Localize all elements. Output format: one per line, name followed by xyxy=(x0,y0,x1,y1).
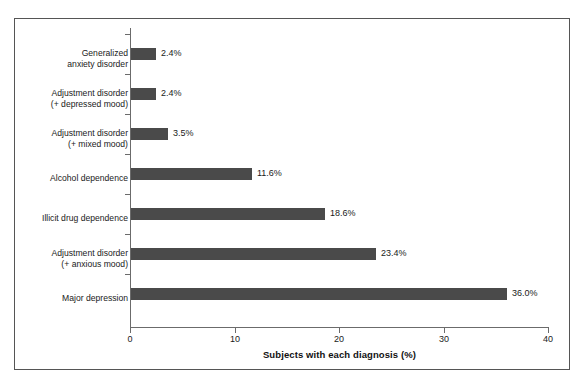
category-axis-tick xyxy=(125,34,130,35)
value-axis-tick xyxy=(130,328,131,333)
category-label-alcohol-dependence: Alcohol dependence xyxy=(0,173,128,184)
category-axis-tick xyxy=(125,114,130,115)
bar-alcohol-dependence xyxy=(131,168,252,180)
category-label-adjustment-disorder-anxious-mood: Adjustment disorder (+ anxious mood) xyxy=(0,248,128,270)
bar-value-alcohol-dependence: 11.6% xyxy=(257,168,282,178)
bar-value-illicit-drug-dependence: 18.6% xyxy=(330,208,356,218)
bar-value-adjustment-disorder-mixed-mood: 3.5% xyxy=(173,128,194,138)
value-axis-tick-label-20: 20 xyxy=(324,334,354,344)
bar-value-adjustment-disorder-anxious-mood: 23.4% xyxy=(381,248,407,258)
value-axis-tick-label-0: 0 xyxy=(115,334,145,344)
category-label-illicit-drug-dependence: Illicit drug dependence xyxy=(0,213,128,224)
value-axis-tick-label-30: 30 xyxy=(429,334,459,344)
value-axis-tick-label-40: 40 xyxy=(533,334,563,344)
bar-generalized-anxiety-disorder xyxy=(131,48,156,60)
category-axis-tick xyxy=(125,154,130,155)
bar-adjustment-disorder-depressed-mood xyxy=(131,88,156,100)
category-label-adjustment-disorder-mixed-mood: Adjustment disorder (+ mixed mood) xyxy=(0,128,128,150)
category-axis-tick xyxy=(125,74,130,75)
value-axis-tick xyxy=(444,328,445,333)
bar-adjustment-disorder-anxious-mood xyxy=(131,248,376,260)
figure: Generalized anxiety disorder 2.4% Adjust… xyxy=(0,0,584,382)
category-label-adjustment-disorder-depressed-mood: Adjustment disorder (+ depressed mood) xyxy=(0,88,128,110)
bar-adjustment-disorder-mixed-mood xyxy=(131,128,168,140)
category-axis-tick xyxy=(125,194,130,195)
category-axis-tick xyxy=(125,274,130,275)
category-axis-tick xyxy=(125,234,130,235)
bar-value-major-depression: 36.0% xyxy=(512,288,538,298)
value-axis-tick xyxy=(548,328,549,333)
category-label-generalized-anxiety-disorder: Generalized anxiety disorder xyxy=(0,48,128,70)
value-axis-tick xyxy=(339,328,340,333)
bar-value-adjustment-disorder-depressed-mood: 2.4% xyxy=(161,88,182,98)
bar-illicit-drug-dependence xyxy=(131,208,325,220)
bar-value-generalized-anxiety-disorder: 2.4% xyxy=(161,48,182,58)
bar-chart-plot: Generalized anxiety disorder 2.4% Adjust… xyxy=(0,0,584,382)
category-label-major-depression: Major depression xyxy=(0,293,128,304)
value-axis-tick xyxy=(235,328,236,333)
x-axis-title: Subjects with each diagnosis (%) xyxy=(130,349,549,360)
value-axis-tick-label-10: 10 xyxy=(220,334,250,344)
bar-major-depression xyxy=(131,288,507,300)
